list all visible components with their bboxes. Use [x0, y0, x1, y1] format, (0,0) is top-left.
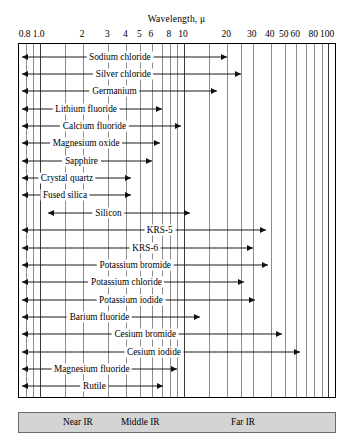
axis-title: Wavelength, μ	[0, 14, 353, 24]
x-tick-label: 2	[80, 29, 85, 39]
material-label: Cesium bromide	[112, 329, 179, 340]
range-arrow-left-icon	[22, 158, 28, 164]
material-range-row: KRS-5	[19, 222, 335, 239]
x-tick-label: 80	[309, 29, 319, 39]
range-arrow-right-icon	[221, 54, 227, 60]
range-arrow-left-icon	[22, 279, 28, 285]
range-arrow-left-icon	[22, 88, 28, 94]
material-label: Potassium bromide	[97, 259, 174, 270]
material-label: Magnesium fluoride	[51, 363, 132, 374]
x-tick-label: 40	[265, 29, 275, 39]
legend-item: Far IR	[231, 417, 255, 427]
range-arrow-right-icon	[146, 158, 152, 164]
range-arrow-right-icon	[238, 279, 244, 285]
x-tick-label: 8	[167, 29, 172, 39]
range-arrow-left-icon	[22, 123, 28, 129]
range-arrow-left-icon	[22, 175, 28, 181]
material-range-row: Lithium fluoride	[19, 100, 335, 117]
material-label: KRS-6	[130, 242, 161, 253]
x-tick-label: 30	[247, 29, 257, 39]
range-arrow-left-icon	[22, 331, 28, 337]
range-arrow-right-icon	[154, 140, 160, 146]
x-tick-label: 100	[320, 29, 334, 39]
x-tick-label: 20	[222, 29, 232, 39]
material-range-row: Cesium iodide	[19, 343, 335, 360]
material-range-row: Sodium chloride	[19, 48, 335, 65]
range-arrow-left-icon	[22, 297, 28, 303]
material-range-row: Rutile	[19, 378, 335, 395]
range-arrow-right-icon	[260, 227, 266, 233]
material-label: Crystal quartz	[38, 173, 95, 184]
range-arrow-left-icon	[22, 366, 28, 372]
x-tick-label: 50	[279, 29, 289, 39]
range-arrow-right-icon	[249, 297, 255, 303]
range-arrow-left-icon	[22, 262, 28, 268]
material-label: Sodium chloride	[87, 51, 154, 62]
legend-item: Near IR	[63, 417, 93, 427]
range-arrow-right-icon	[184, 210, 190, 216]
range-arrow-left-icon	[48, 210, 54, 216]
material-range-row: Silicon	[19, 204, 335, 221]
material-range-row: Sapphire	[19, 152, 335, 169]
material-range-row: Potassium bromide	[19, 256, 335, 273]
x-tick-label: 60	[290, 29, 300, 39]
range-arrow-right-icon	[211, 88, 217, 94]
material-label: KRS-5	[144, 225, 175, 236]
x-tick-label: 1.0	[33, 29, 45, 39]
material-label: Silver chloride	[93, 69, 153, 80]
material-range-row: Germanium	[19, 83, 335, 100]
material-range-row: Cesium bromide	[19, 326, 335, 343]
range-arrow-left-icon	[22, 227, 28, 233]
range-arrow-right-icon	[247, 245, 253, 251]
material-label: Potassium chloride	[88, 277, 164, 288]
material-range-row: Silver chloride	[19, 65, 335, 82]
material-label: Fused silica	[40, 190, 89, 201]
material-range-row: Crystal quartz	[19, 169, 335, 186]
material-range-row: Potassium iodide	[19, 291, 335, 308]
x-tick-label: 0.8	[19, 29, 31, 39]
range-arrow-right-icon	[156, 106, 162, 112]
range-arrow-left-icon	[22, 349, 28, 355]
material-label: Germanium	[90, 86, 139, 97]
x-axis-tick-labels: 0.81.023456810203040506080100	[0, 29, 353, 42]
material-range-row: Fused silica	[19, 187, 335, 204]
legend-item: Middle IR	[121, 417, 159, 427]
material-range-row: KRS-6	[19, 239, 335, 256]
material-range-row: Calcium fluoride	[19, 117, 335, 134]
range-arrow-right-icon	[194, 314, 200, 320]
material-label: Silicon	[93, 207, 124, 218]
chart-plot-area: Sodium chlorideSilver chlorideGermaniumL…	[18, 43, 336, 398]
material-label: Sapphire	[62, 155, 100, 166]
material-label: Cesium iodide	[124, 346, 183, 357]
range-arrow-left-icon	[22, 314, 28, 320]
x-tick-label: 10	[178, 29, 188, 39]
range-arrow-right-icon	[262, 262, 268, 268]
range-arrow-left-icon	[22, 106, 28, 112]
range-arrow-left-icon	[22, 192, 28, 198]
range-arrow-right-icon	[276, 331, 282, 337]
range-arrow-left-icon	[22, 54, 28, 60]
range-arrow-right-icon	[125, 175, 131, 181]
range-arrow-right-icon	[235, 71, 241, 77]
range-arrow-right-icon	[125, 192, 131, 198]
range-arrow-right-icon	[157, 383, 163, 389]
material-label: Lithium fluoride	[53, 103, 120, 114]
range-arrow-right-icon	[294, 349, 300, 355]
x-tick-label: 6	[149, 29, 154, 39]
material-range-row: Magnesium oxide	[19, 135, 335, 152]
material-label: Barium fluoride	[67, 311, 132, 322]
material-label: Magnesium oxide	[50, 138, 122, 149]
x-tick-label: 5	[137, 29, 142, 39]
spectral-region-legend: Near IRMiddle IRFar IR	[18, 412, 336, 433]
material-range-row: Potassium chloride	[19, 274, 335, 291]
material-label: Rutile	[81, 381, 109, 392]
range-arrow-left-icon	[22, 383, 28, 389]
x-tick-label: 3	[105, 29, 110, 39]
material-label: Calcium fluoride	[60, 121, 128, 132]
range-arrow-right-icon	[171, 366, 177, 372]
x-tick-label: 4	[123, 29, 128, 39]
range-arrow-right-icon	[175, 123, 181, 129]
range-arrow-left-icon	[22, 245, 28, 251]
material-label: Potassium iodide	[97, 294, 166, 305]
range-arrow-left-icon	[22, 140, 28, 146]
